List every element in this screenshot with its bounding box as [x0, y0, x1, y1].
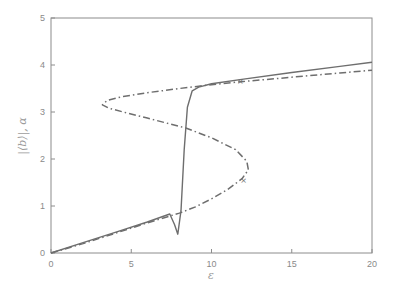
axis-ticks: 05101520012345 — [40, 13, 377, 269]
plot-frame — [51, 18, 372, 253]
data-markers: ×× — [237, 77, 247, 185]
y-tick-label: 4 — [40, 60, 45, 70]
x-tick-label: 5 — [129, 259, 134, 269]
dash-dot-curve — [51, 70, 372, 253]
y-tick-label: 1 — [40, 201, 45, 211]
x-axis-label: ε — [208, 269, 214, 282]
y-axis-label: |⟨b⟩|, α — [16, 117, 30, 155]
cross-marker: × — [240, 176, 247, 185]
x-tick-label: 20 — [367, 259, 377, 269]
bifurcation-chart: 05101520012345 ×× ε |⟨b⟩|, α — [0, 0, 395, 293]
x-tick-label: 15 — [287, 259, 297, 269]
data-series — [51, 62, 372, 253]
x-tick-label: 0 — [48, 259, 53, 269]
y-tick-label: 3 — [40, 107, 45, 117]
y-tick-label: 0 — [40, 248, 45, 258]
y-tick-label: 2 — [40, 154, 45, 164]
solid-curve — [51, 62, 372, 253]
cross-marker: × — [237, 77, 244, 86]
y-tick-label: 5 — [40, 13, 45, 23]
x-tick-label: 10 — [206, 259, 216, 269]
